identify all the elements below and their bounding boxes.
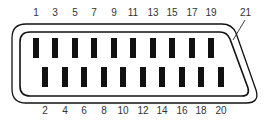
pin-label-5: 5 bbox=[72, 8, 78, 18]
pin-label-12: 12 bbox=[137, 106, 148, 116]
pin-label-6: 6 bbox=[81, 106, 87, 116]
pin-label-14: 14 bbox=[156, 106, 167, 116]
pin-label-17: 17 bbox=[186, 8, 197, 18]
pin-label-2: 2 bbox=[42, 106, 48, 116]
pin-label-15: 15 bbox=[166, 8, 177, 18]
pin-label-8: 8 bbox=[101, 106, 107, 116]
pin-label-11: 11 bbox=[128, 8, 138, 18]
pin-label-7: 7 bbox=[91, 8, 97, 18]
pin-label-20: 20 bbox=[215, 106, 226, 116]
pin-label-4: 4 bbox=[62, 106, 68, 116]
pin-labels: 135791113151719 2468101214161820 21 bbox=[0, 0, 267, 124]
pin-label-10: 10 bbox=[117, 106, 128, 116]
pin-label-13: 13 bbox=[147, 8, 158, 18]
pin-label-18: 18 bbox=[195, 106, 206, 116]
pin-label-3: 3 bbox=[52, 8, 58, 18]
pin-label-9: 9 bbox=[111, 8, 117, 18]
pin-label-1: 1 bbox=[33, 8, 39, 18]
pin-label-19: 19 bbox=[205, 8, 216, 18]
pin-label-16: 16 bbox=[176, 106, 187, 116]
pin-label-21: 21 bbox=[240, 8, 251, 18]
